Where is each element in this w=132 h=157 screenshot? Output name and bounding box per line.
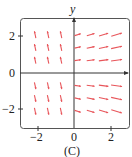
y-axis-label: y: [70, 3, 75, 15]
ytick-label-0: 0: [9, 67, 15, 79]
ytick-label-2: 2: [9, 30, 15, 42]
y-axis-arrowhead: [72, 17, 76, 22]
xtick-label-neg2: −2: [30, 131, 43, 143]
ytick-label-neg2: −2: [2, 103, 15, 115]
x-axis-arrowhead: [124, 71, 129, 75]
xtick-label-2: 2: [108, 131, 114, 143]
xtick-label-0: 0: [71, 131, 77, 143]
figure-caption: (C): [64, 145, 80, 157]
axis-ticks: [18, 36, 111, 131]
